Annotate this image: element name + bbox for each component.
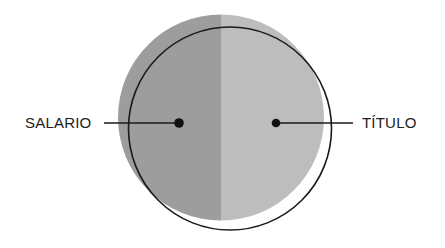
label-titulo: TÍTULO bbox=[362, 115, 417, 130]
label-salario: SALARIO bbox=[25, 115, 91, 130]
right-dot-icon bbox=[272, 119, 281, 128]
left-dot-icon bbox=[174, 118, 184, 128]
